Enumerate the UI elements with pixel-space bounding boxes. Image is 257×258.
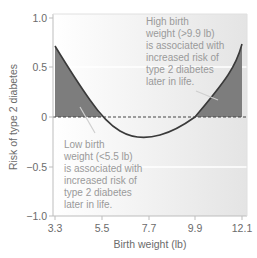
svg-text:is associated with: is associated with <box>146 40 224 51</box>
svg-text:type 2 diabetes: type 2 diabetes <box>146 64 214 75</box>
y-tick-label: 1.0 <box>32 12 47 24</box>
svg-text:High birth: High birth <box>146 16 189 27</box>
x-ticks <box>55 216 242 220</box>
x-tick-label: 7.7 <box>142 222 157 234</box>
y-tick-label: 0 <box>41 111 47 123</box>
x-tick-label: 3.3 <box>48 222 63 234</box>
x-tick-label: 9.9 <box>188 222 203 234</box>
x-tick-label: 12.1 <box>232 222 253 234</box>
y-axis-title: Risk of type 2 diabetes <box>7 64 19 170</box>
y-tick-label: 0.5 <box>32 61 47 73</box>
svg-text:increased risk of: increased risk of <box>64 175 137 186</box>
y-ticks <box>49 18 53 216</box>
svg-text:weight (>9.9 lb): weight (>9.9 lb) <box>145 28 215 39</box>
chart: 1.0 0.5 0 −0.5 −1.0 3.3 5.5 7.7 9.9 12.1… <box>0 0 257 258</box>
svg-text:type 2 diabetes: type 2 diabetes <box>64 187 132 198</box>
svg-text:later in life.: later in life. <box>146 76 194 87</box>
y-tick-label: −1.0 <box>26 210 47 222</box>
y-tick-label: −0.5 <box>26 161 47 173</box>
svg-text:weight (<5.5 lb): weight (<5.5 lb) <box>63 151 133 162</box>
svg-text:is associated with: is associated with <box>64 163 142 174</box>
x-tick-label: 5.5 <box>95 222 110 234</box>
y-tick-labels: 1.0 0.5 0 −0.5 −1.0 <box>26 12 47 222</box>
x-tick-labels: 3.3 5.5 7.7 9.9 12.1 <box>48 222 253 234</box>
svg-text:Low birth: Low birth <box>64 139 105 150</box>
svg-text:later in life.: later in life. <box>64 199 112 210</box>
svg-text:increased risk of: increased risk of <box>146 52 219 63</box>
x-axis-title: Birth weight (lb) <box>114 238 187 250</box>
